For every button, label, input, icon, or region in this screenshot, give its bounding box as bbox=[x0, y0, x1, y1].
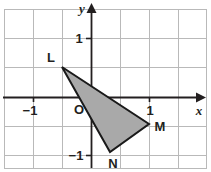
vertex-label-l: L bbox=[47, 50, 55, 65]
y-axis-arrow-icon bbox=[87, 3, 97, 13]
y-axis-label: y bbox=[77, 1, 85, 16]
vertex-label-m: M bbox=[155, 119, 166, 134]
origin-label: O bbox=[74, 102, 84, 117]
x-axis-label: x bbox=[195, 103, 203, 118]
y-tick-label-positive-one: 1 bbox=[75, 31, 82, 46]
coordinate-plane-figure: L M N O −1 1 1 −1 x y bbox=[0, 0, 211, 172]
x-tick-label-negative-one: −1 bbox=[23, 103, 38, 118]
coordinate-plot: L M N O −1 1 1 −1 x y bbox=[0, 0, 211, 172]
x-axis-arrow-icon bbox=[196, 93, 206, 103]
x-tick-label-positive-one: 1 bbox=[146, 103, 153, 118]
vertex-label-n: N bbox=[108, 156, 117, 171]
y-tick-label-negative-one: −1 bbox=[69, 148, 84, 163]
